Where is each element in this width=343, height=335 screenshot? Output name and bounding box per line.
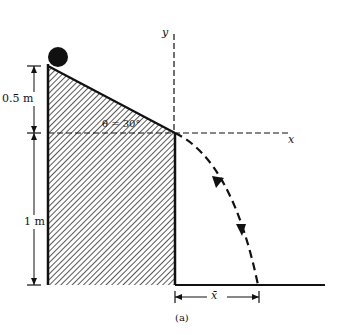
height-lower-label: 1 m [24, 215, 45, 228]
x-axis-label: x [288, 133, 294, 146]
dim-arrow-icon [31, 278, 37, 285]
angle-label: θ = 30° [102, 118, 140, 129]
dim-arrow-icon [175, 294, 182, 300]
ball [48, 47, 68, 67]
projectile-diagram [0, 0, 343, 335]
dim-arrow-icon [31, 66, 37, 73]
range-label: x̄ [211, 289, 217, 302]
dim-arrow-icon [31, 126, 37, 133]
trajectory-path [175, 133, 258, 285]
y-axis-label: y [162, 26, 168, 39]
dim-arrow-icon [31, 133, 37, 140]
dim-arrow-icon [252, 294, 259, 300]
height-upper-label: 0.5 m [2, 92, 33, 105]
figure-caption: (a) [175, 312, 189, 323]
